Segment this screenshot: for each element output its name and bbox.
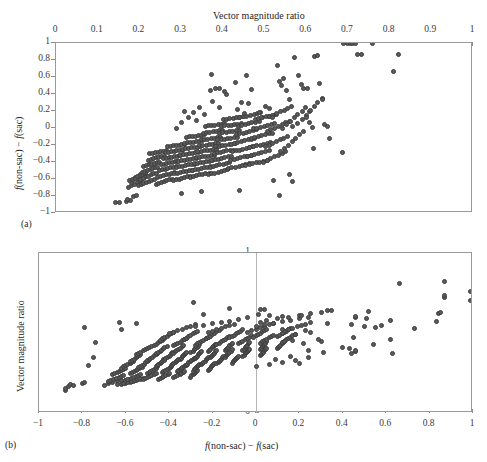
scatter-point xyxy=(191,300,196,305)
scatter-point xyxy=(195,329,200,334)
scatter-point xyxy=(256,312,261,317)
panel-a-y-tick: 0 xyxy=(45,122,50,132)
scatter-point xyxy=(412,326,417,331)
scatter-point xyxy=(468,289,471,294)
scatter-point xyxy=(438,310,443,315)
scatter-point xyxy=(340,345,345,350)
scatter-point xyxy=(280,319,285,324)
scatter-point xyxy=(327,136,332,141)
scatter-point xyxy=(249,87,254,92)
figure-container: Vector magnitude ratio 00.10.20.30.40.50… xyxy=(0,0,487,462)
scatter-point xyxy=(201,312,206,317)
scatter-point xyxy=(214,348,219,353)
panel-a-x-tick: 1 xyxy=(470,25,475,35)
scatter-point xyxy=(194,118,199,123)
scatter-point xyxy=(208,88,213,93)
scatter-point xyxy=(258,320,263,325)
panel-a-x-tick: 0.8 xyxy=(383,25,395,35)
scatter-point xyxy=(279,83,284,88)
scatter-point xyxy=(289,104,294,109)
scatter-point xyxy=(275,63,280,68)
scatter-point xyxy=(134,193,139,198)
panel-a-x-tick: 0.9 xyxy=(424,25,436,35)
panel-b-x-tick: 0 xyxy=(253,419,258,429)
panel-a-label: (a) xyxy=(21,219,32,229)
panel-b-x-tick: −0.2 xyxy=(203,419,220,429)
scatter-point xyxy=(197,105,202,110)
scatter-point xyxy=(201,323,206,328)
scatter-point xyxy=(271,178,276,183)
scatter-point xyxy=(320,97,325,102)
panel-a-y-tick: 0.4 xyxy=(38,88,50,98)
panel-b-label: (b) xyxy=(5,440,16,450)
scatter-point xyxy=(311,146,316,151)
panel-b-y-axis-title: Vector magnitude ratio xyxy=(16,300,26,392)
scatter-point xyxy=(217,86,222,91)
scatter-point xyxy=(179,191,184,196)
scatter-point xyxy=(310,125,315,130)
scatter-point xyxy=(351,335,356,340)
panel-b-x-tick: 1 xyxy=(470,419,475,429)
panel-a-y-title-mid: (non-sac) − xyxy=(13,139,24,187)
scatter-point xyxy=(290,338,295,343)
scatter-point xyxy=(258,307,263,312)
panel-b-x-axis-title: f(non-sac) − f(sac) xyxy=(205,441,278,451)
scatter-point xyxy=(370,43,375,46)
panel-b-x-tick: −0.6 xyxy=(116,419,133,429)
scatter-point xyxy=(217,105,222,110)
scatter-point xyxy=(277,193,282,198)
scatter-point xyxy=(288,354,293,359)
scatter-point xyxy=(270,115,275,120)
panel-b-x-tick: −1 xyxy=(33,419,43,429)
panel-b-x-tick: 0.6 xyxy=(379,419,391,429)
scatter-point xyxy=(227,306,232,311)
scatter-point xyxy=(236,317,241,322)
scatter-point xyxy=(210,99,215,104)
scatter-point xyxy=(117,200,122,205)
panel-a-x-tick: 0.4 xyxy=(216,25,228,35)
scatter-point xyxy=(359,52,364,57)
scatter-point xyxy=(373,325,378,330)
panel-a-y-tick: 0.8 xyxy=(38,54,50,64)
scatter-point xyxy=(284,88,289,93)
scatter-point xyxy=(267,148,272,153)
scatter-point xyxy=(301,341,306,346)
scatter-point xyxy=(285,134,290,139)
scatter-point xyxy=(319,310,324,315)
scatter-point xyxy=(199,189,204,194)
scatter-point xyxy=(362,324,367,329)
scatter-point xyxy=(117,320,122,325)
scatter-point xyxy=(239,100,244,105)
scatter-point xyxy=(267,313,272,318)
scatter-point xyxy=(209,72,214,77)
scatter-point xyxy=(305,86,310,91)
scatter-point xyxy=(254,364,259,369)
panel-b-plot-area xyxy=(38,252,472,412)
scatter-point xyxy=(242,111,247,116)
panel-a-x-tick: 0.3 xyxy=(174,25,186,35)
scatter-point xyxy=(299,313,304,318)
scatter-point xyxy=(245,315,250,320)
panel-a-x-tick: 0 xyxy=(53,25,58,35)
panel-b-x-tick: 0.8 xyxy=(423,419,435,429)
scatter-point xyxy=(191,110,196,115)
panel-a-y-tick: 1 xyxy=(45,37,50,47)
panel-a-y-tick: −0.2 xyxy=(33,139,50,149)
scatter-point xyxy=(202,112,207,117)
scatter-point xyxy=(397,281,402,286)
scatter-point xyxy=(321,350,326,355)
scatter-point xyxy=(237,188,242,193)
scatter-point xyxy=(349,322,354,327)
scatter-point xyxy=(267,362,272,367)
scatter-point xyxy=(329,308,334,313)
scatter-point xyxy=(230,341,235,346)
panel-a-y-tick: 0.2 xyxy=(38,105,50,115)
scatter-point xyxy=(391,69,396,74)
panel-b-x-tick: −0.4 xyxy=(160,419,177,429)
panel-a-x-tick: 0.2 xyxy=(132,25,144,35)
scatter-point xyxy=(179,120,184,125)
scatter-point xyxy=(273,357,278,362)
scatter-point xyxy=(434,319,439,324)
scatter-point xyxy=(347,346,352,351)
scatter-point xyxy=(71,383,76,388)
